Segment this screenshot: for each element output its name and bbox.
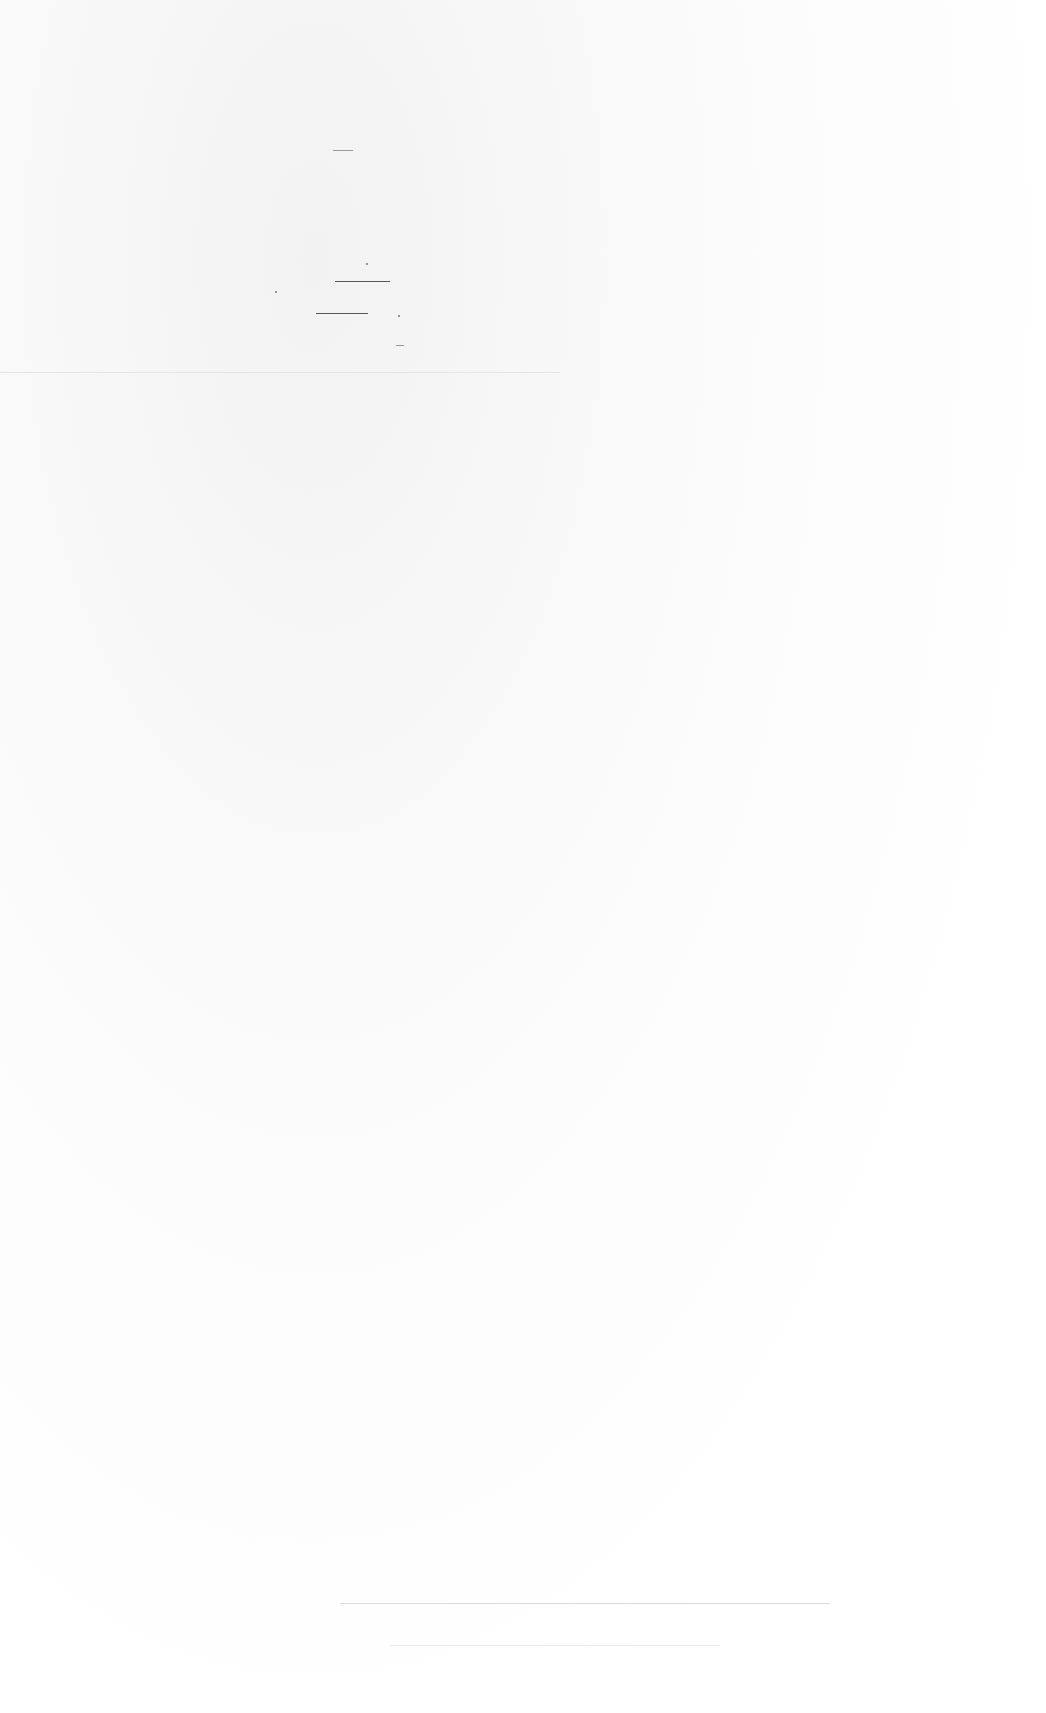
faint-rule (390, 1645, 720, 1646)
stray-dot (366, 263, 368, 265)
stray-line-mark (316, 313, 368, 314)
stray-line-mark (396, 345, 404, 346)
faint-rule (0, 372, 560, 373)
stray-dot (398, 315, 400, 317)
stray-line-mark (335, 281, 390, 282)
blank-scanned-page (0, 0, 1046, 1713)
stray-dot (275, 291, 277, 293)
faint-rule (340, 1603, 830, 1604)
stray-line-mark (333, 150, 353, 151)
